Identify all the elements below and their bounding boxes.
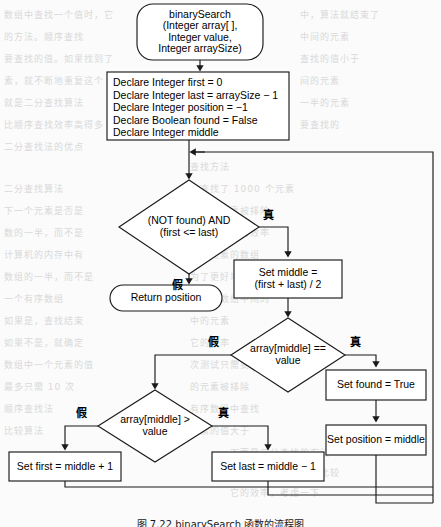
label-declare-line-4: Declare Boolean found = False bbox=[113, 114, 289, 127]
branch-label-cmpequal-true: 真 bbox=[350, 333, 361, 349]
label-cmp-greater-line-1: array[middle] > bbox=[96, 414, 214, 426]
label-set-middle: Set middle = (first + last) / 2 bbox=[234, 267, 342, 290]
label-set-position: Set position = middle bbox=[324, 434, 428, 446]
label-loop-condition: (NOT found) AND (first <= last) bbox=[114, 215, 264, 238]
branch-label-cmpgreater-true: 真 bbox=[218, 404, 229, 420]
label-return-position-text: Return position bbox=[110, 292, 222, 304]
label-set-last-text: Set last = middle − 1 bbox=[212, 461, 324, 473]
edge-cmpgreater-false-to-setfirst bbox=[65, 426, 98, 449]
edge-setlast-merge bbox=[268, 481, 433, 495]
label-cmp-greater-line-2: value bbox=[96, 426, 214, 438]
label-set-first-text: Set first = middle + 1 bbox=[9, 461, 121, 473]
label-declare-line-1: Declare Integer first = 0 bbox=[113, 76, 289, 89]
figure-caption: 图 7.22 binarySearch 函数的流程图 bbox=[0, 516, 441, 527]
branch-label-cmpequal-false: 假 bbox=[208, 333, 219, 349]
label-declare-line-2: Declare Integer last = arraySize − 1 bbox=[113, 89, 289, 102]
edge-cmpequal-false-to-cmpgreater bbox=[155, 355, 231, 388]
label-set-middle-line-2: (first + last) / 2 bbox=[234, 279, 342, 291]
edge-setfirst-merge bbox=[65, 481, 433, 487]
label-set-position-text: Set position = middle bbox=[324, 434, 428, 446]
label-start-line-4: Integer arraySize) bbox=[137, 43, 263, 55]
label-declare-line-5: Declare Integer middle bbox=[113, 126, 289, 139]
branch-label-loop-false: 假 bbox=[172, 276, 183, 292]
label-declare: Declare Integer first = 0 Declare Intege… bbox=[113, 76, 289, 139]
label-start-line-2: (Integer array[ ], bbox=[137, 20, 263, 32]
label-set-middle-line-1: Set middle = bbox=[234, 267, 342, 279]
label-set-found: Set found = True bbox=[326, 379, 426, 391]
label-set-found-text: Set found = True bbox=[326, 379, 426, 391]
edge-cmpgreater-true-to-setlast bbox=[212, 426, 268, 449]
edge-setposition-merge bbox=[376, 455, 433, 503]
branch-label-cmpgreater-false: 假 bbox=[76, 404, 87, 420]
label-cmp-equal: array[middle] == value bbox=[226, 343, 350, 366]
figure-page: 数组中查找一个值时，它小的元素中，算法就结束了的方法。顺序查找中间的元素要查找的… bbox=[0, 0, 441, 527]
label-cmp-equal-line-1: array[middle] == bbox=[226, 343, 350, 355]
label-loop-condition-line-2: (first <= last) bbox=[114, 227, 264, 239]
label-cmp-greater: array[middle] > value bbox=[96, 414, 214, 437]
label-return-position: Return position bbox=[110, 292, 222, 304]
label-declare-line-3: Declare Integer position = −1 bbox=[113, 101, 289, 114]
label-set-last: Set last = middle − 1 bbox=[212, 461, 324, 473]
label-cmp-equal-line-2: value bbox=[226, 355, 350, 367]
branch-label-loop-true: 真 bbox=[263, 206, 274, 222]
label-set-first: Set first = middle + 1 bbox=[9, 461, 121, 473]
label-loop-condition-line-1: (NOT found) AND bbox=[114, 215, 264, 227]
label-start: binarySearch (Integer array[ ], Integer … bbox=[137, 9, 263, 55]
